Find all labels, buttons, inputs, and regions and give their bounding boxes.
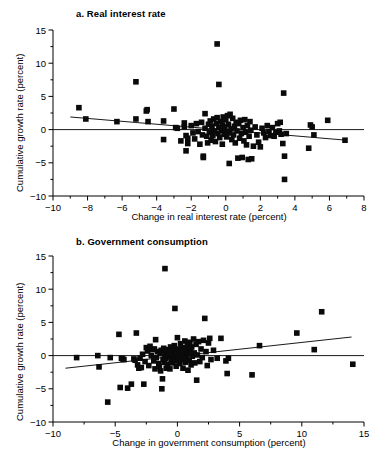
svg-b-x-tick-label: −10	[45, 428, 61, 439]
svg-b-y-tick-label: −10	[30, 417, 46, 428]
svg-a-data-point	[251, 143, 257, 149]
svg-b-data-point	[192, 360, 198, 366]
svg-a-data-point	[258, 144, 264, 150]
svg-b-data-point	[185, 367, 191, 373]
svg-a-data-point	[190, 130, 196, 136]
svg-b-data-point	[117, 385, 123, 391]
svg-a-y-tick-label: −10	[30, 191, 46, 202]
svg-b-data-point	[121, 357, 127, 363]
svg-b-data-point	[211, 347, 217, 353]
svg-a-data-point	[244, 142, 250, 148]
svg-a-data-point	[247, 119, 253, 125]
svg-a-x-tick-label: 2	[258, 202, 263, 213]
svg-a-data-point	[281, 90, 287, 96]
svg-a-data-point	[342, 137, 348, 143]
svg-b-data-point	[203, 349, 209, 355]
figure-container: a. Real interest rate Cumulative growth …	[0, 0, 380, 462]
svg-b-x-tick-label: 5	[237, 428, 242, 439]
svg-b-data-point	[139, 365, 145, 371]
svg-b-data-point	[172, 306, 178, 312]
svg-a-data-point	[263, 135, 269, 141]
svg-a-data-point	[278, 131, 284, 137]
svg-b-data-point	[175, 335, 181, 341]
svg-b-data-point	[148, 353, 154, 359]
svg-a-data-point	[282, 153, 288, 159]
svg-a-data-point	[188, 123, 194, 129]
svg-a-x-tick-label: −6	[117, 202, 128, 213]
svg-b-data-point	[207, 336, 213, 342]
svg-a-y-tick-label: 15	[35, 25, 46, 36]
svg-b-data-point	[180, 365, 186, 371]
svg-b-data-point	[224, 371, 230, 377]
svg-b-data-point	[160, 376, 166, 382]
svg-b-data-point	[218, 336, 224, 342]
svg-a-y-tick-label: 5	[41, 91, 46, 102]
svg-a-data-point	[114, 119, 120, 125]
svg-a-y-tick-label: 0	[41, 124, 46, 135]
svg-a-y-tick-label: −5	[35, 157, 46, 168]
svg-a-data-point	[252, 124, 258, 130]
svg-a-data-point	[311, 132, 317, 138]
svg-b-data-point	[107, 355, 113, 361]
svg-b-data-point	[146, 363, 152, 369]
svg-b-y-tick-label: 10	[35, 284, 46, 295]
svg-b-data-point	[129, 381, 135, 387]
svg-b-data-point	[214, 355, 220, 361]
svg-a-data-point	[133, 116, 139, 122]
svg-a-data-point	[133, 79, 139, 85]
svg-a-data-point	[277, 119, 283, 125]
svg-a-data-point	[282, 177, 288, 183]
svg-b-data-point	[319, 309, 325, 315]
svg-a-data-point	[242, 117, 248, 123]
svg-b-data-point	[105, 399, 111, 405]
svg-a-data-point	[249, 156, 255, 162]
svg-b-data-point	[116, 332, 122, 338]
svg-a-data-point	[144, 107, 150, 113]
svg-b-data-point	[249, 372, 255, 378]
svg-b-data-point	[158, 368, 164, 374]
svg-b-data-point	[96, 364, 102, 370]
svg-b-x-tick-label: 0	[175, 428, 180, 439]
svg-a-data-point	[83, 116, 89, 122]
svg-a-x-tick-label: −4	[151, 202, 162, 213]
svg-a-data-point	[171, 106, 177, 112]
svg-b-data-point	[208, 357, 214, 363]
svg-b-data-point	[196, 339, 202, 345]
svg-a-data-point	[145, 119, 151, 125]
svg-b-data-point	[140, 351, 146, 357]
svg-a-data-point	[175, 125, 181, 131]
svg-a-data-point	[309, 124, 315, 130]
svg-b-data-point	[191, 336, 197, 342]
svg-b-data-point	[226, 355, 232, 361]
svg-b-data-point	[199, 355, 205, 361]
svg-b-y-tick-label: 15	[35, 251, 46, 262]
svg-a-y-tick-label: 10	[35, 58, 46, 69]
svg-a-data-point	[280, 141, 286, 147]
svg-b-y-tick-label: 0	[41, 350, 46, 361]
svg-b-data-point	[74, 355, 80, 361]
svg-a-data-point	[226, 161, 232, 167]
panel-a-plot-area: −10−5051015−10−8−6−4−202468	[0, 0, 380, 231]
svg-a-data-point	[254, 132, 260, 138]
svg-a-data-point	[220, 141, 226, 147]
svg-a-data-point	[239, 155, 245, 161]
svg-a-data-point	[246, 133, 252, 139]
svg-a-data-point	[161, 137, 167, 143]
svg-b-y-tick-label: −5	[35, 383, 46, 394]
svg-a-data-point	[199, 119, 205, 125]
svg-a-data-point	[216, 82, 222, 88]
chart-panel-b: b. Government consumption Cumulative gro…	[0, 231, 380, 462]
svg-a-data-point	[192, 136, 198, 142]
svg-a-data-point	[161, 118, 167, 124]
svg-a-data-point	[76, 105, 82, 111]
svg-a-data-point	[201, 155, 207, 161]
svg-a-x-tick-label: −2	[186, 202, 197, 213]
svg-b-data-point	[194, 377, 200, 383]
svg-a-x-tick-label: −10	[45, 202, 61, 213]
svg-b-x-tick-label: 15	[359, 428, 370, 439]
svg-b-x-tick-label: 10	[297, 428, 308, 439]
svg-b-x-tick-label: −5	[110, 428, 121, 439]
svg-b-data-point	[162, 266, 168, 272]
svg-b-data-point	[167, 366, 173, 372]
svg-a-data-point	[202, 111, 208, 117]
